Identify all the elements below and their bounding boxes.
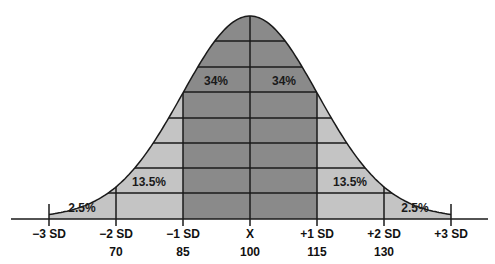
label-region-3: 34% <box>204 74 228 88</box>
tick-label-mean: X <box>246 227 254 241</box>
tick-label-plus3: +3 SD <box>434 227 468 241</box>
curve-fill <box>0 0 495 219</box>
tick-label-minus3: −3 SD <box>32 227 66 241</box>
tick-value-minus2: 70 <box>109 245 123 259</box>
label-region-6: 2.5% <box>401 201 429 215</box>
label-region-1: 2.5% <box>68 201 96 215</box>
tick-label-minus1: −1 SD <box>166 227 200 241</box>
label-region-2: 13.5% <box>132 175 166 189</box>
tick-value-mean: 100 <box>240 245 260 259</box>
tick-label-minus2: −2 SD <box>99 227 133 241</box>
tick-label-plus2: +2 SD <box>367 227 401 241</box>
x-tick-labels: −3 SD −2 SD −1 SD X +1 SD +2 SD +3 SD 70… <box>32 227 468 259</box>
label-region-4: 34% <box>272 74 296 88</box>
tick-marks <box>116 219 384 226</box>
tick-label-plus1: +1 SD <box>300 227 334 241</box>
tick-value-plus1: 115 <box>307 245 327 259</box>
tick-value-minus1: 85 <box>176 245 190 259</box>
bell-curve-chart: 2.5% 13.5% 34% 34% 13.5% 2.5% −3 SD −2 S… <box>0 0 495 264</box>
label-region-5: 13.5% <box>333 175 367 189</box>
tick-value-plus2: 130 <box>374 245 394 259</box>
